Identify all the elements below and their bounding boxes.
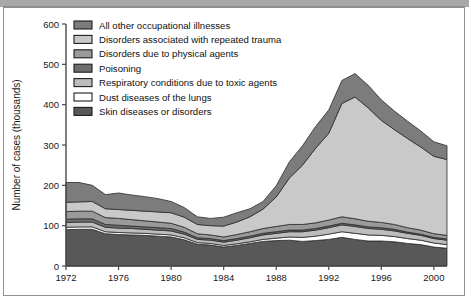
legend-label: Dust diseases of the lungs: [99, 92, 212, 103]
y-tick-label: 500: [43, 59, 59, 70]
legend-label: Disorders due to physical agents: [99, 48, 238, 59]
x-tick-label: 1984: [213, 272, 234, 283]
x-tick-label: 1980: [161, 272, 182, 283]
x-tick-label: 1996: [371, 272, 392, 283]
legend-swatch: [74, 50, 92, 58]
legend-label: Respiratory conditions due to toxic agen…: [99, 77, 277, 88]
y-tick-label: 200: [43, 180, 59, 191]
y-axis-ticks: 0100200300400500600: [43, 19, 66, 272]
legend-label: Disorders associated with repeated traum…: [99, 34, 282, 45]
chart-page: 0100200300400500600 19721976198019841988…: [0, 0, 469, 299]
y-tick-label: 100: [43, 220, 59, 231]
y-tick-label: 300: [43, 140, 59, 151]
y-tick-label: 600: [43, 19, 59, 30]
legend-swatch: [74, 79, 92, 87]
legend-swatch: [74, 21, 92, 29]
y-tick-label: 0: [54, 261, 59, 272]
x-tick-label: 1988: [266, 272, 287, 283]
x-axis-ticks: 19721976198019841988199219962000: [55, 266, 444, 283]
x-tick-label: 2000: [423, 272, 444, 283]
legend-swatch: [74, 35, 92, 43]
legend-swatch: [74, 107, 92, 115]
legend-swatch: [74, 64, 92, 72]
y-axis-title: Number of cases (thousands): [11, 79, 22, 210]
legend-label: All other occupational illnesses: [99, 20, 230, 31]
legend-swatch: [74, 93, 92, 101]
chart-canvas: 0100200300400500600 19721976198019841988…: [0, 0, 469, 299]
x-tick-label: 1976: [108, 272, 129, 283]
chart-legend: All other occupational illnessesDisorder…: [74, 20, 282, 117]
y-tick-label: 400: [43, 99, 59, 110]
x-tick-label: 1992: [318, 272, 339, 283]
legend-label: Skin diseases or disorders: [99, 106, 212, 117]
stacked-area-chart: 0100200300400500600 19721976198019841988…: [0, 0, 469, 299]
x-tick-label: 1972: [55, 272, 76, 283]
legend-label: Poisoning: [99, 63, 141, 74]
